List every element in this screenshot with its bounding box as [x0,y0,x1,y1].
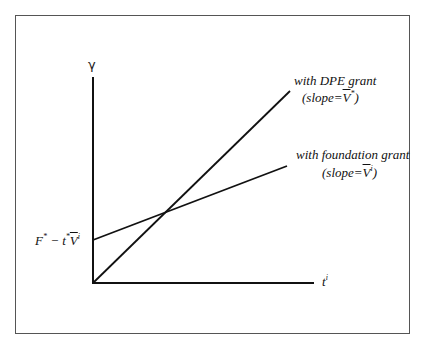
x-axis-label: ti [322,273,328,290]
intercept-label: F* − t*Vi [35,232,80,249]
foundation-grant-slope-label: (slope=Vi) [322,164,377,181]
dpe-grant-line [94,91,290,282]
foundation-grant-line [93,166,287,240]
dpe-grant-label: with DPE grant [294,73,376,89]
y-axis-label: γ [88,57,96,72]
dpe-grant-slope-label: (slope=V*) [302,89,359,106]
foundation-grant-label: with foundation grant [296,147,409,163]
